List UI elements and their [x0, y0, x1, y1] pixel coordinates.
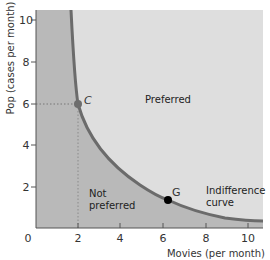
x-tick-2: 2 [75, 232, 82, 245]
not-preferred-label-line1: Not [89, 188, 107, 199]
y-tick-10: 10 [19, 14, 33, 27]
preferred-label: Preferred [145, 94, 191, 105]
x-tick-4: 4 [117, 232, 124, 245]
x-tick-6: 6 [160, 232, 167, 245]
point-g-marker [164, 196, 172, 204]
y-ticks [31, 20, 36, 187]
indifference-curve-label-line1: Indifference [206, 185, 266, 196]
y-tick-4: 4 [23, 139, 30, 152]
not-preferred-label-line2: preferred [89, 200, 135, 211]
point-g-label: G [172, 186, 181, 199]
x-axis-title: Movies (per month) [167, 248, 265, 259]
point-c-label: C [84, 94, 92, 107]
indifference-curve-chart: 10 8 6 4 2 0 2 4 6 8 10 Movies (per mont… [0, 0, 270, 260]
y-tick-6: 6 [23, 98, 30, 111]
y-axis-title: Pop (cases per month) [5, 2, 16, 115]
x-tick-10: 10 [241, 232, 255, 245]
x-tick-8: 8 [203, 232, 210, 245]
y-tick-8: 8 [23, 56, 30, 69]
x-tick-0: 0 [25, 232, 32, 245]
indifference-curve-label-line2: curve [206, 197, 234, 208]
y-tick-2: 2 [23, 181, 30, 194]
point-c-marker [74, 100, 82, 108]
